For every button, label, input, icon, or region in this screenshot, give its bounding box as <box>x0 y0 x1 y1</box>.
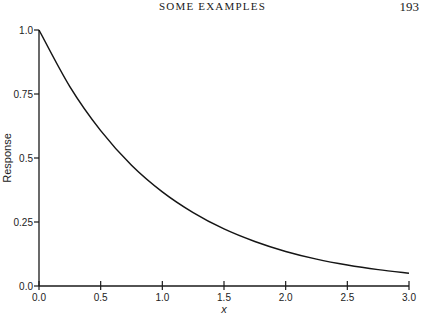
y-tick-label: 0.25 <box>14 217 34 228</box>
x-tick-label: 1.5 <box>217 292 231 303</box>
x-tick-label: 0.5 <box>94 292 108 303</box>
x-tick-label: 3.0 <box>402 292 416 303</box>
y-tick-label: 1.0 <box>19 25 33 36</box>
x-tick-label: 2.0 <box>279 292 293 303</box>
response-curve-chart: 0.00.250.50.751.0 0.00.51.01.52.02.53.0 … <box>0 0 425 316</box>
response-series-line <box>39 30 409 273</box>
x-ticks: 0.00.51.01.52.02.53.0 <box>32 281 416 303</box>
y-tick-label: 0.0 <box>19 281 33 292</box>
y-tick-label: 0.5 <box>19 153 33 164</box>
y-tick-label: 0.75 <box>14 89 34 100</box>
x-axis-title: x <box>220 303 227 315</box>
y-axis-title: Response <box>1 133 13 183</box>
x-tick-label: 1.0 <box>155 292 169 303</box>
x-tick-label: 2.5 <box>340 292 354 303</box>
x-tick-label: 0.0 <box>32 292 46 303</box>
y-ticks: 0.00.250.50.751.0 <box>14 25 39 292</box>
